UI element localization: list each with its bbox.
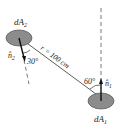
distance-line [20, 38, 100, 97]
distance-label: r = 100 cm [39, 43, 72, 70]
angle-60-label: 60° [84, 77, 96, 86]
angle-arc-30 [23, 50, 30, 53]
area-1-label: dA1 [94, 114, 107, 125]
radiation-geometry-diagram: dA2 dA1 n̂2 n̂1 30° 60° r = 100 cm [0, 0, 127, 129]
angle-30-label: 30° [26, 57, 39, 66]
normal-1-arrowhead [99, 78, 103, 84]
area-2-label: dA2 [14, 17, 27, 28]
normal-1-label: n̂1 [105, 79, 112, 89]
normal-2-label: n̂2 [8, 51, 15, 61]
